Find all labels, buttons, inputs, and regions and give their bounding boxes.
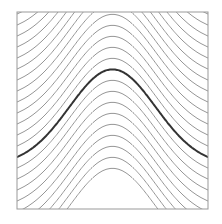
contour-curve (15, 0, 210, 26)
contour-curve (15, 0, 210, 70)
contour-curve (15, 0, 210, 37)
contour-curve (15, 157, 210, 224)
contour-curve (15, 0, 210, 4)
contour-curve (15, 168, 210, 224)
contour-diagram (0, 0, 222, 224)
contour-curve (15, 146, 210, 224)
curve-group (15, 0, 210, 224)
frame-border (17, 12, 208, 209)
contour-curve (15, 0, 210, 48)
contour-curve (15, 0, 210, 15)
